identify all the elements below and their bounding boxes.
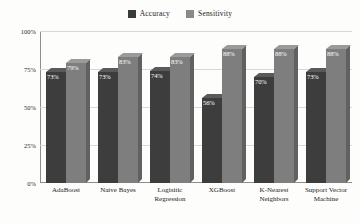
y-tick-label: 100%	[21, 28, 36, 35]
legend-label-sensitivity: Sensitivity	[198, 9, 232, 18]
bar-accuracy[interactable]: 56%	[202, 94, 222, 183]
bar-front-face	[222, 49, 242, 183]
bar-value-label: 83%	[171, 58, 183, 65]
bar-front-face	[118, 57, 138, 183]
bar-front-face	[150, 71, 170, 183]
bar-side-face	[86, 59, 90, 183]
bar-slot: 88%	[326, 31, 346, 183]
legend-label-accuracy: Accuracy	[140, 9, 170, 18]
bar-sensitivity[interactable]: 88%	[222, 45, 242, 183]
bar-front-face	[46, 72, 66, 183]
bar-accuracy[interactable]: 73%	[306, 68, 326, 183]
bar-slot: 73%	[306, 31, 326, 183]
bar-slot: 83%	[118, 31, 138, 183]
bar-front-face	[306, 72, 326, 183]
bar-value-label: 88%	[327, 50, 339, 57]
bar-slot: 88%	[222, 31, 242, 183]
y-tick-label: 0%	[27, 180, 36, 187]
bar-side-face	[242, 45, 246, 183]
bar-value-label: 73%	[47, 73, 59, 80]
bar-group: 73%88%	[300, 31, 352, 183]
bar-slot: 73%	[46, 31, 66, 183]
bar-front-face	[98, 72, 118, 183]
category-label: Logisitic Regression	[144, 186, 196, 203]
bar-front-face	[326, 49, 346, 183]
bar-group: 73%83%	[92, 31, 144, 183]
legend-item-sensitivity: Sensitivity	[186, 9, 232, 18]
x-axis-category-labels: AdaBoostNaive BayesLogisitic RegressionX…	[40, 186, 352, 203]
y-tick-label: 50%	[24, 104, 36, 111]
bar-value-label: 56%	[203, 99, 215, 106]
bar-groups: 73%79%73%83%74%83%56%88%70%88%73%88%	[40, 31, 352, 183]
bar-accuracy[interactable]: 73%	[46, 68, 66, 183]
bar-accuracy[interactable]: 73%	[98, 68, 118, 183]
category-label: Support Vector Machine	[300, 186, 352, 203]
bar-accuracy[interactable]: 74%	[150, 67, 170, 183]
bar-group: 73%79%	[40, 31, 92, 183]
bar-slot: 56%	[202, 31, 222, 183]
chart-legend: Accuracy Sensitivity	[0, 9, 360, 18]
bar-slot: 73%	[98, 31, 118, 183]
bar-front-face	[66, 63, 86, 183]
bar-sensitivity[interactable]: 88%	[274, 45, 294, 183]
plot-area: 0%25%50%75%100% 73%79%73%83%74%83%56%88%…	[40, 31, 352, 183]
bar-accuracy[interactable]: 70%	[254, 73, 274, 183]
bar-group: 74%83%	[144, 31, 196, 183]
bar-group: 56%88%	[196, 31, 248, 183]
bar-side-face	[190, 53, 194, 183]
bar-front-face	[202, 98, 222, 183]
bar-side-face	[346, 45, 350, 183]
bar-slot: 74%	[150, 31, 170, 183]
y-tick-label: 75%	[24, 66, 36, 73]
bar-sensitivity[interactable]: 88%	[326, 45, 346, 183]
bar-side-face	[294, 45, 298, 183]
category-label: XGBoost	[196, 186, 248, 203]
bar-value-label: 73%	[307, 73, 319, 80]
category-label: Naive Bayes	[92, 186, 144, 203]
bar-front-face	[170, 57, 190, 183]
bar-value-label: 73%	[99, 73, 111, 80]
bar-sensitivity[interactable]: 79%	[66, 59, 86, 183]
bar-front-face	[254, 77, 274, 183]
bar-slot: 70%	[254, 31, 274, 183]
bar-value-label: 79%	[67, 64, 79, 71]
legend-item-accuracy: Accuracy	[128, 9, 170, 18]
category-label: AdaBoost	[40, 186, 92, 203]
bar-side-face	[138, 53, 142, 183]
accuracy-swatch-icon	[128, 10, 136, 18]
bar-group: 70%88%	[248, 31, 300, 183]
category-label: K-Nearest Neighbors	[248, 186, 300, 203]
bar-slot: 88%	[274, 31, 294, 183]
bar-front-face	[274, 49, 294, 183]
bar-value-label: 88%	[223, 50, 235, 57]
bar-value-label: 88%	[275, 50, 287, 57]
grouped-bar-chart: Accuracy Sensitivity 0%25%50%75%100% 73%…	[0, 0, 360, 223]
bar-value-label: 74%	[151, 72, 163, 79]
bar-sensitivity[interactable]: 83%	[118, 53, 138, 183]
bar-slot: 79%	[66, 31, 86, 183]
bar-sensitivity[interactable]: 83%	[170, 53, 190, 183]
y-tick-label: 25%	[24, 142, 36, 149]
sensitivity-swatch-icon	[186, 10, 194, 18]
bar-value-label: 83%	[119, 58, 131, 65]
bar-slot: 83%	[170, 31, 190, 183]
bar-value-label: 70%	[255, 78, 267, 85]
